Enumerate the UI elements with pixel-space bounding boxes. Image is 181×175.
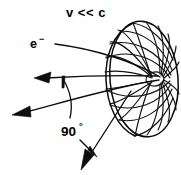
electron-charge-superscript: − [39,34,44,44]
latitude-arc [135,98,173,136]
lower-radiation-ray [12,80,159,117]
meridian [164,80,179,94]
torus-back-meridians [146,22,179,135]
figure-canvas: v << c e − 90 ° [0,0,181,175]
velocity-condition-label: v << c [66,5,106,20]
meridian [135,84,150,136]
electron-label: e − [30,34,44,51]
upper-radiation-ray [34,72,158,83]
ninety-degree-arc [62,76,97,157]
meridian [105,71,152,78]
angle-arc-tick-upper [62,76,65,88]
diagonal-radiation-ray [81,91,131,170]
angle-degree-symbol: ° [79,120,83,131]
electron-label-text: e [30,37,37,51]
meridian [147,84,160,135]
meridian [118,30,152,76]
angle-value-text: 90 [61,124,76,139]
torus-front-meridians [105,23,152,136]
lower-ray-arrowhead [12,106,31,117]
angle-label: 90 ° [61,120,83,139]
radiation-lobe-torus [105,18,181,139]
dipole-radiation-figure: v << c e − 90 ° [0,0,181,175]
upper-ray-arrowhead [34,72,51,83]
